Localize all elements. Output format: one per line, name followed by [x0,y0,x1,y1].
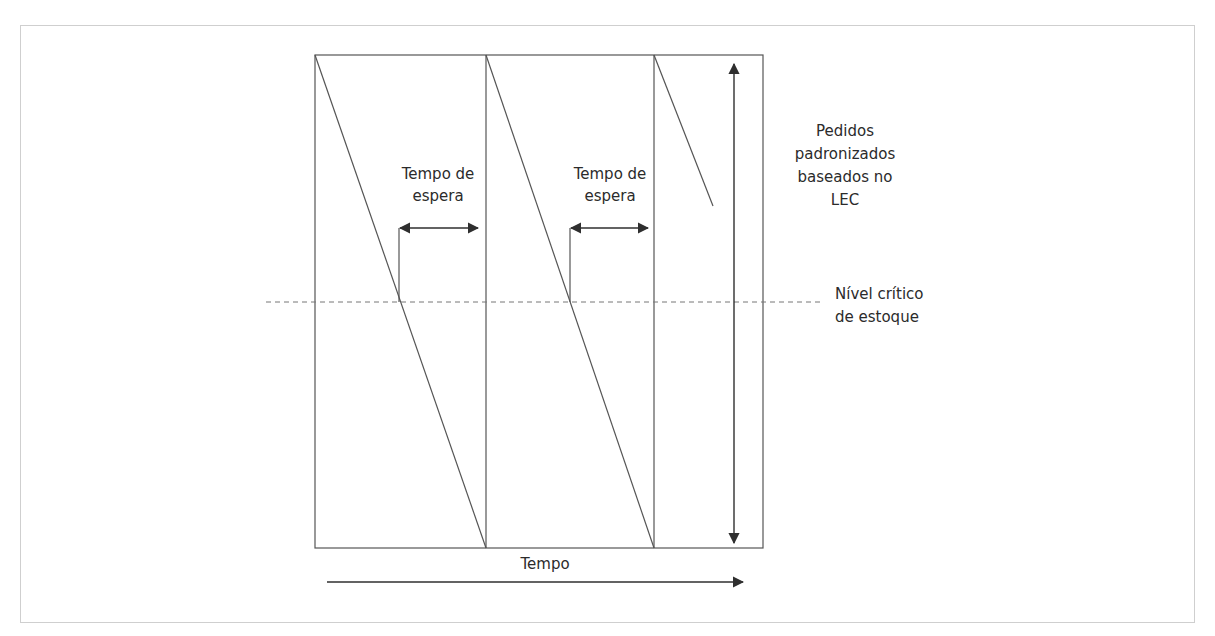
reorder-level-line-1: Nível crítico [835,283,923,306]
order-quantity-label: Pedidos padronizados baseados no LEC [785,120,905,212]
lead-time-label-2-line-2: espera [560,185,660,207]
lead-time-label-2: Tempo de espera [560,163,660,207]
reorder-level-line-2: de estoque [835,306,923,329]
order-quantity-line-2: padronizados [785,143,905,166]
reorder-level-label: Nível crítico de estoque [835,283,923,329]
order-quantity-line-4: LEC [785,189,905,212]
lead-time-label-1-line-1: Tempo de [388,163,488,185]
consumption-line-3 [654,55,713,206]
lead-time-label-1: Tempo de espera [388,163,488,207]
order-quantity-line-1: Pedidos [785,120,905,143]
inventory-diagram [0,0,1215,636]
order-quantity-line-3: baseados no [785,166,905,189]
lead-time-label-1-line-2: espera [388,185,488,207]
time-axis-label: Tempo [500,553,590,575]
lead-time-label-2-line-1: Tempo de [560,163,660,185]
